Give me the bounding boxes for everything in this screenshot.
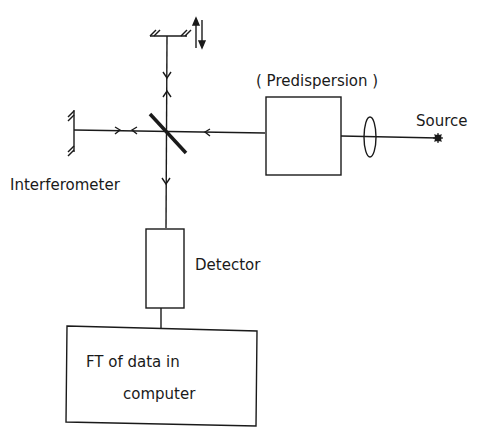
predispersion-label: ( Predispersion ) [256, 72, 378, 90]
interferometer-label: Interferometer [10, 176, 121, 194]
computer-box [66, 326, 257, 426]
beam-source-to-box [341, 136, 438, 138]
source-label: Source [416, 112, 468, 130]
detector-label: Detector [195, 256, 261, 274]
computer-label-line2: computer [123, 385, 196, 403]
detector-box [146, 229, 184, 308]
predispersion-box [266, 97, 341, 175]
source-icon [433, 133, 443, 143]
motion-arrows-icon [193, 18, 205, 48]
spectrometer-diagram: ( Predispersion ) Source Interferometer … [0, 0, 491, 435]
beamsplitter-icon [150, 114, 186, 153]
computer-label-line1: FT of data in [86, 353, 180, 371]
